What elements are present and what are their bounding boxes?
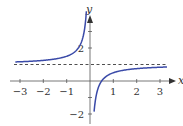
x-tick-label: 1 [110,86,116,97]
y-tick-label: −2 [69,109,84,120]
x-tick-label: −1 [59,86,74,97]
x-tick-label: −3 [13,86,28,97]
y-axis-arrow-icon [87,15,93,23]
x-tick-label: 2 [134,86,140,97]
x-axis-label: x [178,74,183,87]
curve-left-branch [15,11,86,62]
x-axis-arrow-icon [169,78,176,84]
x-tick-label: 3 [157,86,163,97]
x-tick-label: −2 [36,86,51,97]
function-graph: −3 −2 −1 1 2 3 2 −2 x y [0,0,183,126]
